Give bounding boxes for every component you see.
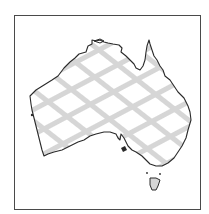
islet xyxy=(146,172,148,174)
islet xyxy=(159,173,161,175)
australia-map xyxy=(0,0,209,214)
shark-bay-detail xyxy=(31,114,33,116)
kangaroo-island xyxy=(121,146,127,152)
tasmania xyxy=(150,178,160,190)
